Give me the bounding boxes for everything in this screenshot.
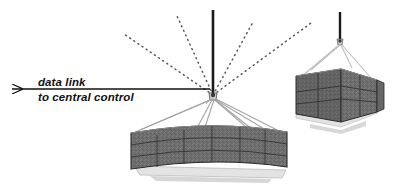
data-link-label-line1: data link xyxy=(38,76,86,88)
dotted-link-3 xyxy=(213,22,253,95)
diagram-svg: data link to central control xyxy=(0,0,404,185)
data-link-label-line2: to central control xyxy=(38,91,134,103)
small-array-left-face xyxy=(296,69,341,122)
large-array-body xyxy=(131,126,287,169)
dotted-link-group xyxy=(124,16,311,95)
small-suspended-array xyxy=(296,12,384,134)
large-suspended-array xyxy=(131,99,287,183)
diagram-canvas: data link to central control xyxy=(0,0,404,185)
dotted-link-1 xyxy=(124,34,213,95)
small-array-node xyxy=(337,39,343,45)
small-array-right-sliver xyxy=(377,80,384,112)
